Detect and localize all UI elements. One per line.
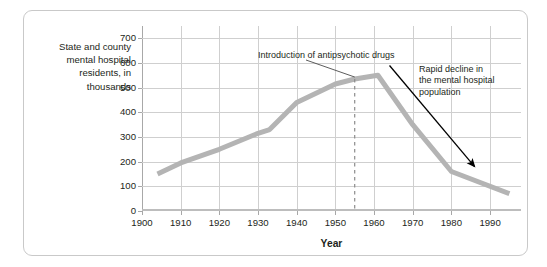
gridline-horizontal — [142, 38, 521, 39]
gridline-horizontal — [142, 162, 521, 163]
gridline-vertical — [413, 26, 414, 211]
y-tick-mark — [138, 63, 142, 64]
y-tick-label: 0 — [104, 206, 136, 216]
x-tick-label: 1950 — [315, 218, 355, 228]
y-tick-label: 200 — [104, 157, 136, 167]
y-tick-label: 500 — [104, 83, 136, 93]
gridline-vertical — [451, 26, 452, 211]
x-tick-label: 1940 — [277, 218, 317, 228]
gridline-vertical — [490, 26, 491, 211]
gridline-horizontal — [142, 186, 521, 187]
x-tick-mark — [335, 211, 336, 215]
gridline-horizontal — [142, 112, 521, 113]
x-tick-mark — [297, 211, 298, 215]
x-tick-mark — [219, 211, 220, 215]
x-tick-label: 1990 — [470, 218, 510, 228]
y-tick-label: 400 — [104, 107, 136, 117]
x-tick-label: 1960 — [354, 218, 394, 228]
x-tick-label: 1980 — [431, 218, 471, 228]
y-tick-mark — [138, 137, 142, 138]
x-tick-mark — [258, 211, 259, 215]
x-tick-mark — [490, 211, 491, 215]
gridline-vertical — [181, 26, 182, 211]
x-tick-mark — [374, 211, 375, 215]
x-tick-label: 1930 — [238, 218, 278, 228]
x-tick-label: 1970 — [393, 218, 433, 228]
gridline-vertical — [219, 26, 220, 211]
x-tick-mark — [413, 211, 414, 215]
x-tick-mark — [181, 211, 182, 215]
y-tick-mark — [138, 88, 142, 89]
x-tick-label: 1920 — [199, 218, 239, 228]
y-tick-mark — [138, 186, 142, 187]
y-tick-mark — [138, 112, 142, 113]
x-tick-mark — [142, 211, 143, 215]
y-tick-label: 600 — [104, 58, 136, 68]
y-tick-mark — [138, 162, 142, 163]
x-tick-mark — [451, 211, 452, 215]
annotation-rapid-decline: Rapid decline in the mental hospital pop… — [419, 64, 515, 98]
x-axis-title: Year — [142, 238, 521, 249]
y-tick-mark — [138, 38, 142, 39]
y-tick-label: 100 — [104, 181, 136, 191]
plot-axis-bottom — [142, 209, 521, 211]
x-tick-label: 1900 — [122, 218, 162, 228]
chart-figure: State and county mental hospital residen… — [0, 0, 547, 267]
y-tick-label: 300 — [104, 132, 136, 142]
gridline-horizontal — [142, 137, 521, 138]
y-tick-label: 700 — [104, 33, 136, 43]
x-tick-label: 1910 — [161, 218, 201, 228]
annotation-antipsychotic-drugs: Introduction of antipsychotic drugs — [258, 50, 406, 61]
